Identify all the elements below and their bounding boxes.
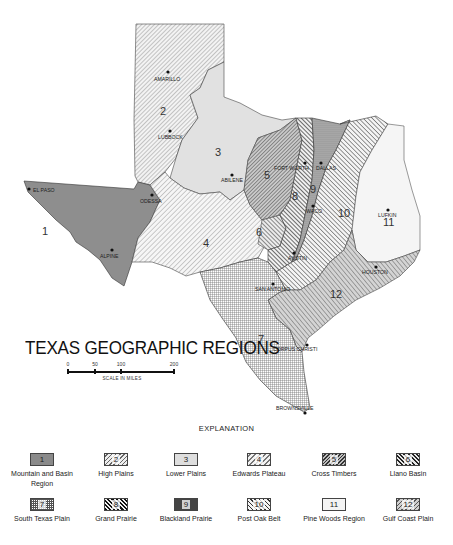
region-number-2: 2 xyxy=(160,105,166,117)
svg-text:LUFKIN: LUFKIN xyxy=(378,212,397,218)
svg-text:ODESSA: ODESSA xyxy=(140,198,162,204)
swatch-4: 4 xyxy=(247,453,271,466)
swatch-5: 5 xyxy=(322,453,346,466)
region-number-10: 10 xyxy=(338,207,350,219)
legend-item-gulf-coast-plain: 12 Gulf Coast Plain xyxy=(370,498,446,524)
svg-text:ALPINE: ALPINE xyxy=(100,253,119,259)
scale-label-200: 200 xyxy=(170,361,178,367)
legend-heading: EXPLANATION xyxy=(0,424,453,433)
legend-item-blackland-prairie: 9 Blackland Prairie xyxy=(148,498,224,524)
legend-item-post-oak-belt: 10 Post Oak Belt xyxy=(221,498,297,524)
region-number-3: 3 xyxy=(215,146,221,158)
svg-text:SAN ANTONIO: SAN ANTONIO xyxy=(255,286,290,292)
svg-text:LUBBOCK: LUBBOCK xyxy=(158,134,183,140)
legend-item-llano-basin: 6 Llano Basin xyxy=(370,453,446,479)
svg-text:DALLAS: DALLAS xyxy=(316,165,336,171)
legend-item-high-plains: 2 High Plains xyxy=(78,453,154,479)
svg-text:ABILENE: ABILENE xyxy=(221,177,243,183)
svg-text:BROWNSVILLE: BROWNSVILLE xyxy=(276,405,314,411)
scale-bar: 0 50 100 200 SCALE IN MILES xyxy=(62,361,182,391)
legend-item-lower-plains: 3 Lower Plains xyxy=(148,453,224,479)
swatch-10: 10 xyxy=(247,498,271,511)
svg-text:AUSTIN: AUSTIN xyxy=(288,255,307,261)
city-brownsville: BROWNSVILLE xyxy=(276,405,314,415)
svg-text:HOUSTON: HOUSTON xyxy=(362,269,388,275)
legend-item-south-texas-plain: 7 South Texas Plain xyxy=(4,498,80,524)
swatch-11: 11 xyxy=(322,498,346,511)
swatch-7: 7 xyxy=(30,498,54,511)
svg-text:EL PASO: EL PASO xyxy=(33,187,55,193)
map-title: TEXAS GEOGRAPHIC REGIONS xyxy=(25,337,280,359)
region-number-5: 5 xyxy=(264,169,270,181)
scale-tick-100 xyxy=(120,369,122,374)
region-number-9: 9 xyxy=(310,183,316,195)
legend-item-mountain-basin: 1 Mountain and Basin Region xyxy=(4,453,80,489)
scale-tick-50 xyxy=(94,369,96,374)
swatch-3: 3 xyxy=(174,453,198,466)
swatch-1: 1 xyxy=(30,453,54,466)
swatch-12: 12 xyxy=(396,498,420,511)
region-number-4: 4 xyxy=(203,237,209,249)
swatch-9: 9 xyxy=(174,498,198,511)
svg-text:AMARILLO: AMARILLO xyxy=(154,76,180,82)
region-number-8: 8 xyxy=(292,190,298,202)
legend-item-edwards-plateau: 4 Edwards Plateau xyxy=(221,453,297,479)
scale-label-100: 100 xyxy=(117,361,125,367)
region-number-12: 12 xyxy=(330,288,342,300)
scale-tick-0 xyxy=(67,369,69,374)
scale-tick-200 xyxy=(173,369,175,374)
svg-text:WACO: WACO xyxy=(306,208,322,214)
scale-label-50: 50 xyxy=(92,361,98,367)
legend-item-cross-timbers: 5 Cross Timbers xyxy=(296,453,372,479)
scale-label-0: 0 xyxy=(67,361,70,367)
swatch-6: 6 xyxy=(396,453,420,466)
legend-item-pine-woods: 11 Pine Woods Region xyxy=(296,498,372,524)
legend-item-grand-prairie: 8 Grand Prairie xyxy=(78,498,154,524)
swatch-8: 8 xyxy=(104,498,128,511)
swatch-2: 2 xyxy=(104,453,128,466)
scale-caption: SCALE IN MILES xyxy=(62,376,182,381)
region-number-6: 6 xyxy=(256,226,262,238)
region-number-1: 1 xyxy=(42,225,48,237)
svg-text:FORT WORTH: FORT WORTH xyxy=(274,165,309,171)
